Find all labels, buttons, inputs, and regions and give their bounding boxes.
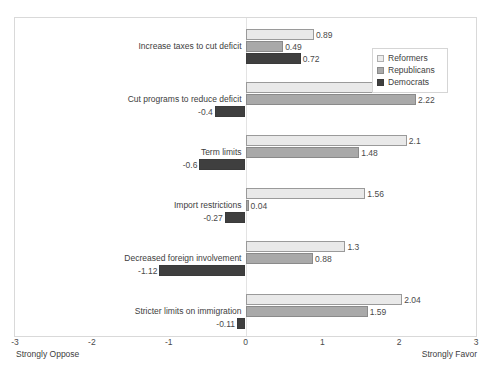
axis-end-label-left: Strongly Oppose (16, 349, 79, 359)
bar-republicans: 2.22 (246, 94, 417, 105)
bar-reformers: 1.56 (246, 188, 366, 199)
bar-democrats: 0.72 (246, 53, 301, 64)
bar-value-label: 0.49 (285, 41, 302, 53)
legend-label: Democrats (388, 77, 429, 87)
legend: Reformers Republicans Democrats (372, 48, 448, 93)
legend-swatch-icon (377, 79, 384, 86)
bar-republicans: 0.04 (246, 200, 249, 211)
bar-democrats: -0.4 (215, 106, 246, 117)
legend-item-reformers: Reformers (377, 52, 443, 64)
bar-value-label: 2.04 (404, 294, 421, 306)
bar-group: 2.041.59-0.11Stricter limits on immigrat… (15, 294, 476, 329)
bar-value-label: -0.27 (203, 212, 222, 224)
category-label: Stricter limits on immigration (135, 306, 242, 317)
legend-item-democrats: Democrats (377, 76, 443, 88)
category-label: Decreased foreign involvement (124, 253, 241, 264)
legend-label: Republicans (388, 65, 435, 75)
category-label: Import restrictions (174, 200, 242, 211)
bar-value-label: 1.48 (361, 147, 378, 159)
bar-value-label: -0.11 (216, 318, 235, 330)
plot-area: 0.890.490.72Increase taxes to cut defici… (14, 17, 477, 337)
x-tick-label: -3 (11, 337, 19, 347)
category-label: Cut programs to reduce deficit (128, 94, 242, 105)
x-tick-label: 1 (320, 337, 325, 347)
bar-chart: 0.890.490.72Increase taxes to cut defici… (0, 0, 491, 375)
category-label: Term limits (201, 147, 242, 158)
bar-republicans: 1.48 (246, 147, 360, 158)
bar-republicans: 0.49 (246, 41, 284, 52)
bar-reformers: 2.04 (246, 294, 403, 305)
bar-group: 1.560.04-0.27Import restrictions (15, 188, 476, 223)
x-tick-label: -1 (165, 337, 173, 347)
bar-value-label: 1.3 (347, 241, 359, 253)
bar-value-label: 1.59 (370, 306, 387, 318)
bar-group: 1.30.88-1.12Decreased foreign involvemen… (15, 241, 476, 276)
category-label: Increase taxes to cut deficit (139, 41, 242, 52)
x-axis: -3-2-10123 Strongly Oppose Strongly Favo… (14, 337, 477, 375)
bar-republicans: 1.59 (246, 306, 368, 317)
legend-swatch-icon (377, 67, 384, 74)
bar-value-label: 1.56 (367, 188, 384, 200)
bar-value-label: 0.72 (303, 53, 320, 65)
bar-value-label: -0.4 (198, 106, 213, 118)
x-tick-label: 0 (243, 337, 248, 347)
bar-democrats: -0.6 (199, 159, 245, 170)
bar-value-label: 0.88 (315, 253, 332, 265)
bar-reformers: 2.1 (246, 135, 407, 146)
bar-value-label: -0.6 (183, 159, 198, 171)
legend-swatch-icon (377, 55, 384, 62)
axis-end-label-right: Strongly Favor (422, 349, 477, 359)
bar-republicans: 0.88 (246, 253, 314, 264)
bar-value-label: 2.1 (409, 135, 421, 147)
bar-value-label: 0.04 (251, 200, 268, 212)
bar-value-label: 0.89 (316, 29, 333, 41)
bar-democrats: -1.12 (159, 265, 245, 276)
bar-group: 2.11.48-0.6Term limits (15, 135, 476, 170)
bar-democrats: -0.27 (225, 212, 246, 223)
bar-democrats: -0.11 (237, 318, 245, 329)
chart-title (186, 1, 306, 9)
zero-axis-line (246, 18, 247, 336)
x-tick-label: 3 (474, 337, 479, 347)
legend-item-republicans: Republicans (377, 64, 443, 76)
x-tick-label: -2 (88, 337, 96, 347)
bar-reformers: 0.89 (246, 29, 314, 40)
legend-label: Reformers (388, 53, 428, 63)
bar-reformers: 1.3 (246, 241, 346, 252)
bar-value-label: -1.12 (138, 265, 157, 277)
bar-value-label: 2.22 (418, 94, 435, 106)
x-tick-label: 2 (397, 337, 402, 347)
